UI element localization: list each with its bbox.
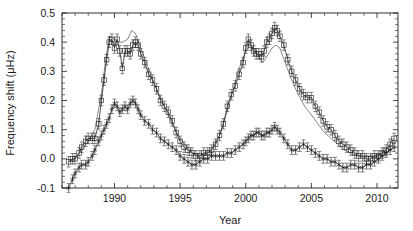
y-tick-label: 0.0 bbox=[40, 152, 55, 164]
x-tick-label: 1995 bbox=[168, 192, 192, 204]
y-tick-label: 0.1 bbox=[40, 123, 55, 135]
x-tick-label: 2010 bbox=[365, 192, 389, 204]
y-tick-label: 0.3 bbox=[40, 65, 55, 77]
y-tick-label: 0.4 bbox=[40, 36, 55, 48]
figure-container: 19901995200020052010-0.10.00.10.20.30.40… bbox=[0, 0, 413, 231]
y-tick-label: -0.1 bbox=[37, 182, 55, 194]
y-tick-label: 0.5 bbox=[40, 7, 55, 19]
x-tick-label: 2000 bbox=[234, 192, 258, 204]
x-tick-label: 1990 bbox=[103, 192, 127, 204]
frequency-shift-chart: 19901995200020052010-0.10.00.10.20.30.40… bbox=[0, 0, 413, 231]
y-axis-title: Frequency shift (μHz) bbox=[4, 50, 16, 155]
y-tick-label: 0.2 bbox=[40, 94, 55, 106]
x-axis-title: Year bbox=[219, 214, 242, 226]
x-tick-label: 2005 bbox=[300, 192, 324, 204]
